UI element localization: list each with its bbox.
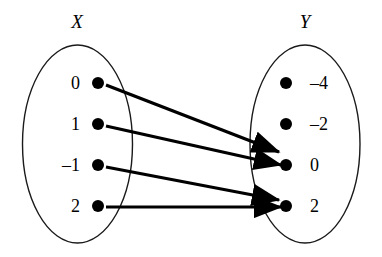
set-x-title: X — [70, 11, 84, 32]
set-y-title: Y — [300, 11, 313, 32]
set-y-ellipse — [250, 45, 360, 243]
set-x-label: –1 — [61, 155, 80, 175]
set-x-dot — [92, 77, 104, 89]
mapping-diagram-canvas: 01–12 –4–202 X Y — [0, 0, 382, 257]
set-x-label: 1 — [71, 114, 80, 134]
set-x-label: 2 — [71, 196, 80, 216]
set-y-dot — [280, 200, 292, 212]
set-x-members: 01–12 — [61, 73, 104, 216]
set-y-label: –2 — [309, 114, 328, 134]
set-y-members: –4–202 — [280, 73, 328, 216]
set-y-label: –4 — [309, 73, 328, 93]
set-y-dot — [280, 77, 292, 89]
mapping-diagram: 01–12 –4–202 X Y — [0, 0, 382, 257]
set-x-label: 0 — [71, 73, 80, 93]
set-y-label: 2 — [310, 196, 319, 216]
set-y-dot — [280, 118, 292, 130]
set-x-dot — [92, 159, 104, 171]
set-y-dot — [280, 159, 292, 171]
set-x-dot — [92, 118, 104, 130]
arrow-neg1-to-2 — [106, 167, 279, 200]
set-x-dot — [92, 200, 104, 212]
set-y-label: 0 — [310, 155, 319, 175]
